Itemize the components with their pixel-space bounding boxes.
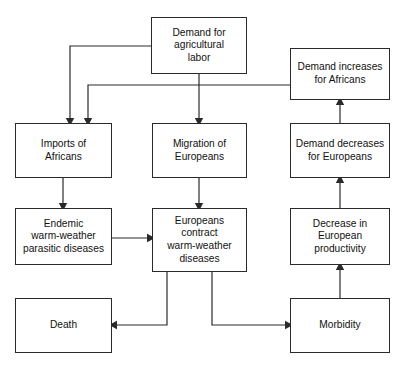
- node-migration-of-europeans[interactable]: Migration of Europeans: [152, 123, 247, 178]
- edge-contract-to-morbidity: [212, 272, 285, 325]
- node-imports-of-africans[interactable]: Imports of Africans: [15, 123, 112, 178]
- node-death[interactable]: Death: [15, 298, 112, 353]
- node-endemic-warm-weather-parasitic-diseases[interactable]: Endemic warm-weather parasitic diseases: [15, 208, 112, 265]
- node-label: Migration of Europeans: [170, 138, 229, 163]
- node-demand-for-agricultural-labor[interactable]: Demand for agricultural labor: [151, 17, 247, 74]
- node-label: Demand for agricultural labor: [169, 27, 228, 65]
- node-morbidity[interactable]: Morbidity: [290, 298, 390, 353]
- node-demand-increases-for-africans[interactable]: Demand increases for Africans: [290, 48, 390, 100]
- node-label: Demand increases for Africans: [295, 61, 386, 86]
- edge-contract-to-death: [117, 272, 167, 325]
- node-decrease-in-european-productivity[interactable]: Decrease in European productivity: [290, 208, 390, 265]
- node-label: Imports of Africans: [38, 138, 89, 163]
- node-label: Europeans contract warm-weather diseases: [164, 215, 235, 265]
- node-demand-decreases-for-europeans[interactable]: Demand decreases for Europeans: [290, 123, 390, 178]
- edge-demand-increases-to-imports: [88, 85, 290, 118]
- node-label: Endemic warm-weather parasitic diseases: [20, 218, 107, 256]
- node-label: Morbidity: [316, 319, 363, 332]
- node-europeans-contract-warm-weather-diseases[interactable]: Europeans contract warm-weather diseases: [152, 208, 247, 272]
- edge-demand-labor-to-imports: [70, 46, 151, 118]
- flowchart-diagram: Demand for agricultural labor Demand inc…: [0, 0, 404, 368]
- node-label: Death: [47, 319, 80, 332]
- node-label: Demand decreases for Europeans: [293, 138, 387, 163]
- node-label: Decrease in European productivity: [310, 218, 370, 256]
